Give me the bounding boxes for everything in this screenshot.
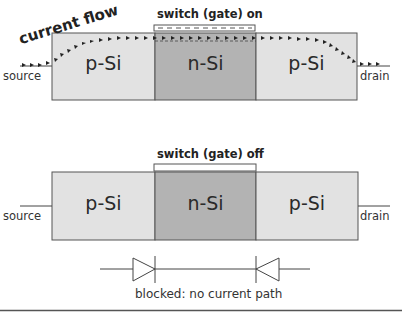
diode-reverse-icon bbox=[256, 258, 279, 281]
p-si-left-label-off: p-Si bbox=[52, 192, 155, 214]
gate-off-label: switch (gate) off bbox=[157, 147, 264, 161]
n-si-label-off: n-Si bbox=[155, 192, 256, 214]
p-si-right-label: p-Si bbox=[256, 52, 357, 74]
p-si-right-label-off: p-Si bbox=[256, 192, 358, 214]
n-si-label: n-Si bbox=[155, 52, 256, 74]
drain-label: drain bbox=[360, 69, 390, 83]
source-label: source bbox=[3, 69, 41, 83]
drain-label-off: drain bbox=[360, 209, 390, 223]
p-si-left-label: p-Si bbox=[52, 52, 155, 74]
gate-on-label: switch (gate) on bbox=[157, 7, 263, 21]
source-label-off: source bbox=[3, 209, 41, 223]
gate-contact-off bbox=[154, 164, 256, 171]
blocked-caption: blocked: no current path bbox=[135, 287, 282, 301]
diode-forward-icon bbox=[133, 258, 155, 281]
back-to-back-diodes bbox=[100, 256, 310, 283]
